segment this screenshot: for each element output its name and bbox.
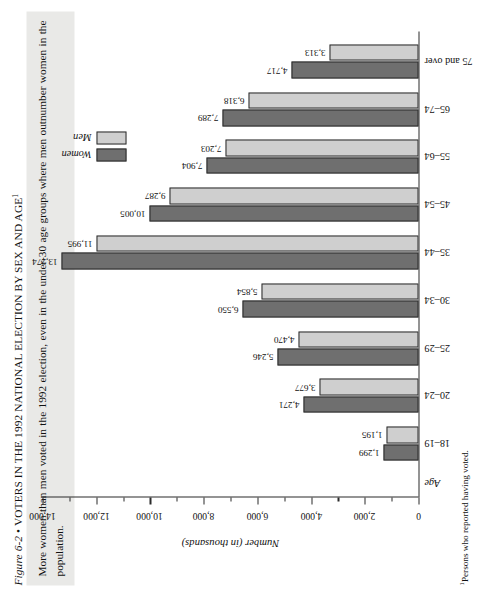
value-axis-minor-tick [176,497,177,502]
value-axis-tick [418,497,419,504]
category-axis-title: Age [424,478,440,489]
bar-value-label-women: 7,289 [198,112,219,122]
bar-men [386,426,418,443]
category-axis-label: 65–74 [424,103,449,114]
category-axis-label: 25–29 [424,342,449,353]
bar-women [206,157,418,174]
legend-swatch-women [96,148,126,161]
bar-men [169,187,418,204]
category-axis-label: 55–64 [424,151,449,162]
bar-men [248,92,418,109]
value-axis-minor-tick [337,497,338,502]
bar-value-label-women: 7,904 [181,160,202,170]
bar-men [261,283,418,300]
bar-women [149,205,418,222]
bar-men [225,139,418,156]
value-axis-tick-label: 12,000 [83,510,109,521]
value-axis-minor-tick [69,497,70,502]
value-axis-tick [42,497,43,504]
value-axis-tick-label: 0 [416,510,421,521]
category-axis-label: 18–19 [424,438,449,449]
bar-women [242,300,418,317]
bar-value-label-men: 3,313 [304,47,325,57]
footnote-text: Persons who reported having voted. [459,450,469,582]
value-axis-tick [96,497,97,504]
value-axis-tick-label: 14,000 [29,510,55,521]
bar-women [277,348,418,365]
value-axis-tick-label: 2,000 [353,510,375,521]
bar-women [291,61,418,78]
bar-value-label-women: 4,717 [267,65,288,75]
bar-value-label-men: 3,677 [295,382,316,392]
value-axis-tick-label: 8,000 [192,510,214,521]
bar-women [303,396,418,413]
value-axis-minor-tick [391,497,392,502]
category-axis-label: 20–24 [424,390,449,401]
legend-label-men: Men [73,132,91,143]
bar-women [383,444,418,461]
value-axis-minor-tick [123,497,124,502]
value-axis-tick [364,497,365,504]
category-axis-label: 30–34 [424,294,449,305]
value-axis-tick-label: 4,000 [300,510,322,521]
bar-value-label-women: 13,274 [32,256,57,266]
category-axis-label: 35–44 [424,247,449,258]
value-axis-tick-label: 6,000 [246,510,268,521]
bar-chart-plot: 02,0004,0006,0008,00010,00012,00014,000N… [0,0,477,593]
value-axis-minor-tick [230,497,231,502]
legend-swatch-men [96,131,126,144]
bar-value-label-women: 5,246 [252,351,273,361]
bar-women [222,109,418,126]
figure-page: Figure 6-2 • VOTERS IN THE 1992 NATIONAL… [0,0,477,593]
bar-value-label-women: 10,005 [120,208,145,218]
bar-value-label-women: 4,271 [279,399,300,409]
value-axis-tick [311,497,312,504]
value-axis-tick [203,497,204,504]
bar-value-label-men: 6,318 [224,95,245,105]
bar-value-label-men: 5,854 [236,286,257,296]
value-axis-minor-tick [284,497,285,502]
bar-women [61,253,418,270]
bar-value-label-men: 7,203 [200,143,221,153]
legend-label-women: Women [61,149,91,160]
bar-value-label-women: 1,299 [358,447,379,457]
bar-men [319,378,418,395]
value-axis-tick [257,497,258,504]
bar-value-label-men: 1,195 [361,429,382,439]
bar-value-label-women: 6,550 [217,304,238,314]
bar-men [298,331,418,348]
value-axis-tick [149,497,150,504]
bar-men [96,235,418,252]
bar-value-label-men: 9,287 [144,190,165,200]
value-axis-tick-label: 10,000 [136,510,162,521]
category-axis-label: 75 and over [424,55,472,66]
value-axis-title: Number (in thousands) [181,538,279,549]
bar-men [329,44,418,61]
bar-value-label-men: 4,470 [273,334,294,344]
category-axis-label: 45–54 [424,199,449,210]
figure-footnote: 1Persons who reported having voted. [457,450,469,585]
bar-value-label-men: 11,995 [67,238,92,248]
